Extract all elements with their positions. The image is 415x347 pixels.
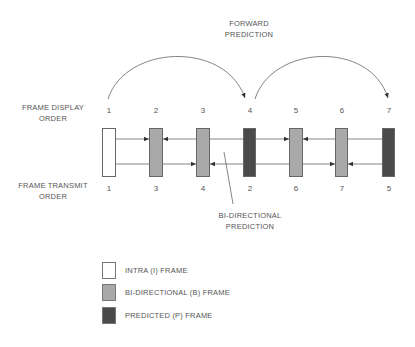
legend-label-predicted: PREDICTED (P) FRAME (125, 311, 213, 320)
frame-6-bidirectional (335, 128, 348, 177)
forward-arc-4-to-7 (255, 56, 388, 99)
frame-1-intra (102, 128, 116, 177)
frame-4-predicted (243, 128, 256, 177)
frame-2-bidirectional (149, 128, 163, 177)
legend-swatch-intra (102, 262, 116, 279)
frame-3-bidirectional (196, 128, 210, 177)
legend-swatch-bidirectional (102, 284, 116, 301)
legend-label-bidirectional: BI-DIRECTIONAL (B) FRAME (125, 288, 230, 297)
frame-5-bidirectional (289, 128, 303, 177)
legend-swatch-predicted (102, 307, 116, 324)
frame-7-predicted (382, 128, 395, 177)
forward-arc-1-to-4 (108, 56, 245, 99)
bidirectional-pointer (224, 152, 233, 204)
legend-label-intra: INTRA (I) FRAME (125, 266, 188, 275)
